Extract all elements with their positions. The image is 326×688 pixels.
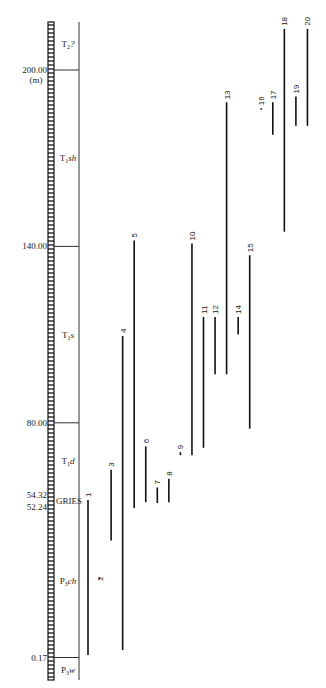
range-bar-label: 18 — [280, 16, 289, 25]
range-bar-label: 16 — [257, 96, 266, 105]
range-bar-label: 12 — [211, 305, 220, 314]
range-bar-label: 2 — [96, 576, 105, 581]
y-tick-label: 0.17 — [31, 653, 47, 663]
range-bar-label: 14 — [234, 305, 243, 314]
range-bar-label: 8 — [165, 471, 174, 476]
range-bar-label: 7 — [153, 479, 162, 484]
range-bar-label: 13 — [223, 90, 232, 99]
unit-label-T1s: T1s — [62, 330, 75, 341]
stratigraphic-range-chart: 200.00140.0080.0054.3252.240.17(m) P3wP3… — [0, 0, 326, 688]
y-tick-label: 140.00 — [22, 241, 47, 251]
unit-label-T1sh: T1sh — [60, 153, 77, 164]
y-tick-label: 52.24 — [27, 502, 48, 512]
range-bar-label: 5 — [130, 233, 139, 238]
range-bar-label: 3 — [107, 462, 116, 467]
gries-boundary-label: GRIES — [56, 496, 82, 506]
unit-label-T2?: T2? — [62, 39, 76, 50]
unit-label-P3w: P3w — [61, 665, 75, 676]
range-bar-label: 1 — [84, 492, 93, 497]
unit-label-T1d: T1d — [62, 456, 76, 467]
range-bar-label: 20 — [303, 16, 312, 25]
stratigraphic-units-column: P3wP3chT1dT1sT1shT2?GRIES — [54, 39, 82, 676]
range-bar-label: 9 — [176, 444, 185, 449]
y-tick-label: 54.32 — [27, 490, 47, 500]
y-axis-unit-label: (m) — [30, 75, 43, 85]
range-bar-label: 19 — [292, 84, 301, 93]
range-bar-label: 6 — [142, 438, 151, 443]
unit-label-P3ch: P3ch — [60, 576, 77, 587]
range-bar-label: 17 — [269, 90, 278, 99]
y-tick-label: 80.00 — [27, 418, 48, 428]
range-bar-label: 4 — [119, 328, 128, 333]
range-bar-label: 15 — [246, 243, 255, 252]
y-axis-labels: 200.00140.0080.0054.3252.240.17(m) — [22, 65, 47, 663]
range-bar-label: 11 — [200, 305, 209, 314]
y-tick-label: 200.00 — [22, 65, 47, 75]
range-bars: 1234567891011121314151617181920 — [84, 16, 312, 655]
range-bar-label: 10 — [188, 231, 197, 240]
